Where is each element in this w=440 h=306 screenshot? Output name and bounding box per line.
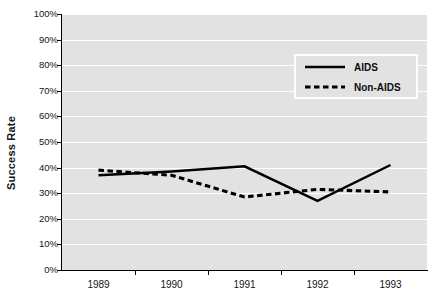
y-axis-tick-mark bbox=[57, 142, 61, 143]
gridline bbox=[62, 168, 427, 169]
gridline bbox=[62, 244, 427, 245]
x-axis-tick-label: 1991 bbox=[215, 279, 275, 290]
gridline bbox=[62, 116, 427, 117]
y-axis-tick-mark bbox=[57, 65, 61, 66]
legend-label-non-aids: Non-AIDS bbox=[354, 82, 401, 93]
x-axis-tick-mark bbox=[208, 271, 209, 275]
y-axis-tick-label: 20% bbox=[10, 214, 58, 224]
x-axis-tick-label: 1990 bbox=[142, 279, 202, 290]
x-axis-tick-label: 1989 bbox=[69, 279, 129, 290]
legend-label-aids: AIDS bbox=[354, 62, 378, 73]
gridline bbox=[62, 142, 427, 143]
dashed-line-key bbox=[303, 82, 347, 92]
y-axis-tick-label: 70% bbox=[10, 86, 58, 96]
y-axis-tick-label: 50% bbox=[10, 137, 58, 147]
y-axis-tick-mark bbox=[57, 14, 61, 15]
legend-row-aids: AIDS bbox=[296, 57, 416, 77]
y-axis-tick-mark bbox=[57, 244, 61, 245]
y-axis-tick-mark bbox=[57, 168, 61, 169]
legend-row-non-aids: Non-AIDS bbox=[296, 77, 416, 97]
y-axis-tick-label: 100% bbox=[10, 9, 58, 19]
y-axis-tick-label: 90% bbox=[10, 35, 58, 45]
plot-area bbox=[62, 14, 427, 270]
line-chart: Success Rate 100%90%80%70%60%50%40%30%20… bbox=[0, 0, 440, 306]
y-axis-tick-mark bbox=[57, 219, 61, 220]
x-axis-line bbox=[61, 270, 428, 271]
y-axis-tick-mark bbox=[57, 91, 61, 92]
y-axis-title: Success Rate bbox=[0, 0, 22, 306]
gridline bbox=[62, 40, 427, 41]
y-axis-tick-label: 40% bbox=[10, 163, 58, 173]
x-axis-tick-label: 1992 bbox=[288, 279, 348, 290]
y-axis-tick-mark bbox=[57, 116, 61, 117]
y-axis-tick-mark bbox=[57, 193, 61, 194]
x-axis-tick-mark bbox=[281, 271, 282, 275]
y-axis-title-label: Success Rate bbox=[5, 116, 17, 190]
x-axis-tick-label: 1993 bbox=[361, 279, 421, 290]
y-axis-tick-label: 10% bbox=[10, 239, 58, 249]
y-axis-tick-label: 30% bbox=[10, 188, 58, 198]
x-axis-tick-mark bbox=[354, 271, 355, 275]
legend: AIDS Non-AIDS bbox=[294, 54, 418, 99]
y-axis-line bbox=[61, 14, 62, 271]
y-axis-tick-label: 60% bbox=[10, 111, 58, 121]
gridline bbox=[62, 14, 427, 15]
y-axis-tick-label: 80% bbox=[10, 60, 58, 70]
gridline bbox=[62, 193, 427, 194]
x-axis-tick-mark bbox=[135, 271, 136, 275]
y-axis-tick-label: 0% bbox=[10, 265, 58, 275]
gridline bbox=[62, 219, 427, 220]
y-axis-tick-mark bbox=[57, 40, 61, 41]
solid-line-key bbox=[303, 62, 347, 72]
y-axis-tick-mark bbox=[57, 270, 61, 271]
